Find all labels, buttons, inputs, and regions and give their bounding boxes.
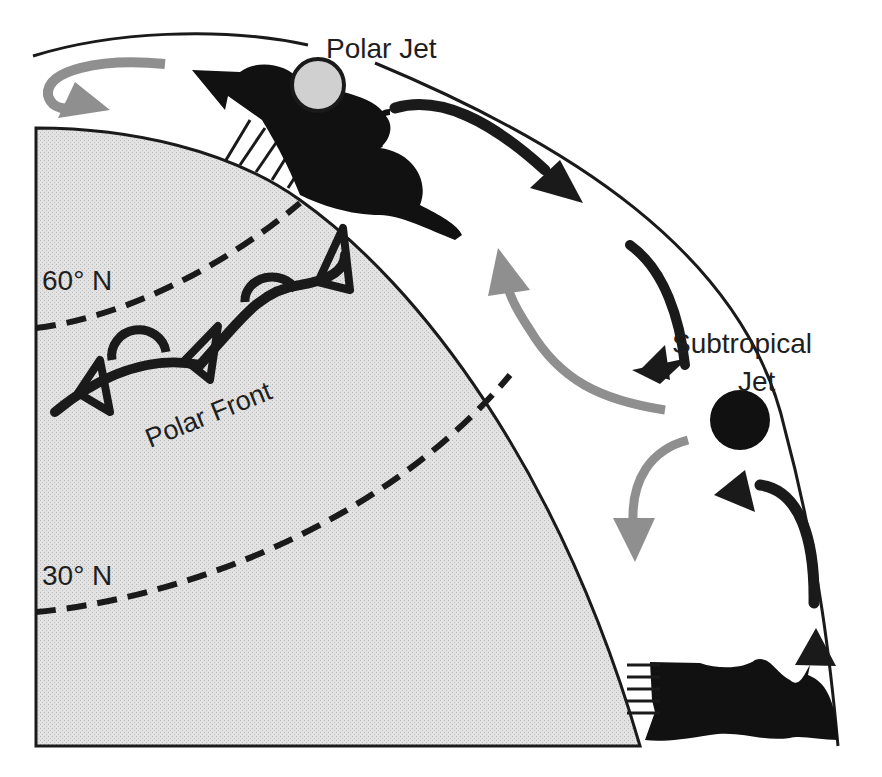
latitude-60-label: 60° N <box>42 265 112 296</box>
gray-descending-arrow-icon <box>613 440 688 562</box>
tropical-updraft-arrowhead-icon <box>795 628 836 666</box>
latitude-30-label: 30° N <box>42 560 112 591</box>
subtropical-jet-label-line1: Subtropical <box>672 328 812 359</box>
subtropical-jet-core <box>710 390 770 450</box>
subtropical-inflow-arrow-icon <box>630 245 688 384</box>
polar-jet-label: Polar Jet <box>326 33 437 64</box>
circulation-diagram: 60° N 30° N Polar Front Polar Jet <box>0 0 882 777</box>
tropopause-arc-left <box>33 34 308 56</box>
polar-jet-core <box>292 59 344 111</box>
gray-return-arrow-icon <box>488 248 665 410</box>
gray-loop-arrow-icon <box>48 62 165 118</box>
tropical-convection-mass <box>645 659 838 741</box>
subtropical-jet-label-line2: Jet <box>738 366 776 397</box>
earth-surface <box>36 128 640 746</box>
